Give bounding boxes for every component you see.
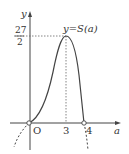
peak-value-denominator: 2	[17, 38, 23, 47]
y-axis-arrow-icon	[28, 11, 32, 17]
x-tick-3: 3	[63, 126, 69, 136]
curve-label: y=S(a)	[63, 24, 98, 34]
graph-figure: y 27 2 y=S(a) O 3 4 a	[0, 0, 129, 154]
origin-open-point	[27, 121, 31, 125]
peak-value-numerator: 27	[15, 26, 26, 35]
x-axis-label: a	[114, 126, 120, 136]
curve-S	[29, 36, 84, 123]
curve-left-extension	[14, 123, 29, 147]
y-axis-label: y	[21, 9, 27, 19]
origin-label: O	[33, 126, 41, 136]
x-tick-4: 4	[86, 126, 92, 136]
